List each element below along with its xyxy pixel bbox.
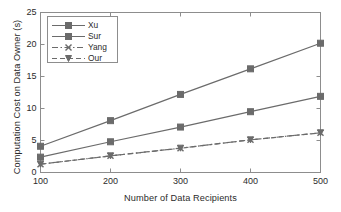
x-tick-label: 400 — [236, 176, 266, 186]
legend-label-our: Our — [88, 53, 102, 64]
legend-label-yang: Yang — [88, 42, 107, 53]
x-tick-label: 300 — [166, 176, 196, 186]
legend-item-yang[interactable]: Yang — [48, 42, 119, 53]
legend-sample-yang — [51, 42, 86, 53]
x-tick-label: 100 — [26, 176, 56, 186]
legend-sample-our — [51, 53, 86, 64]
x-tick-label: 500 — [306, 176, 336, 186]
legend-item-xu[interactable]: Xu — [48, 20, 119, 31]
x-tick-label: 200 — [96, 176, 126, 186]
chart-figure: 0510152025 100200300400500 Computation C… — [0, 0, 341, 212]
legend-label-xu: Xu — [88, 20, 98, 31]
legend-item-sur[interactable]: Sur — [48, 31, 119, 42]
y-axis-title: Computation Cost on Data Owner (s) — [12, 17, 22, 177]
x-axis-title: Number of Data Recipients — [40, 193, 321, 203]
legend-item-our[interactable]: Our — [48, 53, 119, 64]
legend-sample-xu — [51, 20, 86, 31]
legend-sample-sur — [51, 31, 86, 42]
legend: XuSurYangOur — [47, 16, 118, 63]
legend-label-sur: Sur — [88, 31, 101, 42]
y-tick-label: 25 — [15, 7, 37, 17]
